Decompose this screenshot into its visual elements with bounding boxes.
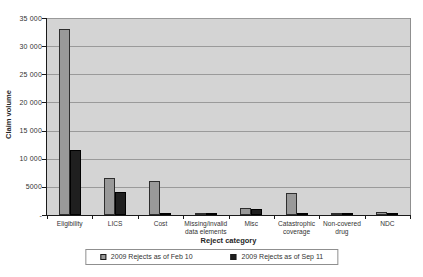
x-tick-mark [410, 216, 411, 219]
y-tick-label: 30 000 [10, 43, 42, 50]
plot-area [47, 18, 410, 215]
x-category-label: Non-covereddrug [316, 220, 367, 235]
x-category-label: Catastrophiccoverage [271, 220, 322, 235]
y-tick-mark [42, 187, 46, 188]
x-category-label: NDC [362, 220, 413, 228]
legend-entry: 2009 Rejects as of Sep 11 [231, 253, 324, 261]
gridline [47, 159, 410, 160]
x-category-label: Misc [226, 220, 277, 228]
x-tick-mark [47, 216, 48, 219]
bar-cost-series-0 [149, 181, 160, 215]
x-category-label: Missing/invaliddata elements [180, 220, 231, 235]
x-axis-title: Reject category [47, 236, 410, 245]
y-tick-mark [42, 215, 46, 216]
legend-label: 2009 Rejects as of Sep 11 [242, 253, 324, 261]
y-tick-mark [42, 74, 46, 75]
y-tick-mark [42, 18, 46, 19]
bar-eligibility-series-1 [70, 150, 81, 215]
y-axis-title: Claim volume [4, 70, 13, 160]
gridline [47, 131, 410, 132]
gridline [47, 102, 410, 103]
legend-entry: 2009 Rejects as of Feb 10 [100, 253, 193, 261]
legend-swatch-icon [231, 254, 237, 260]
x-category-label: LICS [89, 220, 140, 228]
y-tick-mark [42, 102, 46, 103]
y-tick-mark [42, 131, 46, 132]
x-axis-line [44, 215, 411, 216]
y-tick-mark [42, 46, 46, 47]
gridline [47, 18, 410, 19]
bar-chart-figure: Claim volume -500010 00015 00020 00025 0… [0, 0, 423, 277]
legend: 2009 Rejects as of Feb 102009 Rejects as… [85, 249, 338, 265]
x-tick-mark [274, 216, 275, 219]
legend-swatch-icon [100, 254, 106, 260]
gridline [47, 187, 410, 188]
legend-label: 2009 Rejects as of Feb 10 [111, 253, 193, 261]
y-tick-mark [42, 159, 46, 160]
x-tick-mark [365, 216, 366, 219]
bar-lics-series-0 [104, 178, 115, 215]
gridline [47, 46, 410, 47]
plot-right-border [410, 18, 411, 215]
gridline [47, 74, 410, 75]
x-tick-mark [183, 216, 184, 219]
x-category-label: Eligibility [44, 220, 95, 228]
x-tick-mark [229, 216, 230, 219]
x-tick-mark [92, 216, 93, 219]
bar-eligibility-series-0 [59, 29, 70, 215]
y-tick-label: 15 000 [10, 127, 42, 134]
x-tick-mark [138, 216, 139, 219]
x-category-label: Cost [135, 220, 186, 228]
x-tick-mark [319, 216, 320, 219]
y-tick-label: - [10, 212, 42, 219]
y-tick-label: 20 000 [10, 99, 42, 106]
bar-lics-series-1 [115, 192, 126, 215]
y-tick-label: 5000 [10, 183, 42, 190]
y-tick-label: 10 000 [10, 155, 42, 162]
y-tick-label: 25 000 [10, 71, 42, 78]
bar-misc-series-0 [240, 208, 251, 215]
y-axis-line [46, 18, 47, 216]
y-tick-label: 35 000 [10, 15, 42, 22]
bar-catastrophic-coverage-series-0 [286, 193, 297, 215]
